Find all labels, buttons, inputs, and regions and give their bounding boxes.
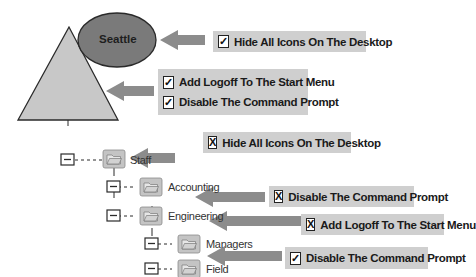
- policy-text: Hide All Icons On The Desktop: [222, 137, 380, 149]
- managers-policy-box: XAdd Logoff To The Start Menu: [301, 214, 444, 235]
- checkbox-checked-icon: ✓: [218, 35, 229, 48]
- ou-field[interactable]: Field: [206, 263, 228, 275]
- collapse-icon: [61, 154, 74, 165]
- folder-icon: [178, 260, 200, 277]
- policy-text: Hide All Icons On The Desktop: [234, 36, 392, 48]
- domain-policy-box: ✓Add Logoff To The Start Menu ✓Disable T…: [158, 69, 308, 115]
- checkbox-blocked-icon: X: [274, 190, 283, 203]
- checkbox-checked-icon: ✓: [163, 96, 174, 109]
- checkbox-blocked-icon: X: [306, 218, 315, 231]
- ou-managers[interactable]: Managers: [206, 238, 253, 250]
- folder-icon: [103, 150, 125, 168]
- folder-icon: [140, 178, 162, 196]
- ou-accounting[interactable]: Accounting: [168, 181, 219, 193]
- policy-text: Disable The Command Prompt: [179, 96, 339, 108]
- folder-icon: [140, 207, 162, 225]
- folder-icon: [178, 235, 200, 253]
- policy-text: Add Logoff To The Start Menu: [179, 76, 335, 88]
- checkbox-blocked-icon: X: [208, 136, 217, 149]
- arrow-icon: [160, 30, 205, 50]
- ou-staff[interactable]: Staff: [130, 154, 151, 166]
- engineering-policy-box: XDisable The Command Prompt: [269, 186, 414, 207]
- ou-engineering[interactable]: Engineering: [168, 210, 223, 222]
- field-policy-box: ✓Disable The Command Prompt: [285, 247, 428, 269]
- site-label: Seattle: [99, 33, 137, 45]
- collapse-icon: [145, 238, 158, 249]
- policy-text: Disable The Command Prompt: [288, 191, 448, 203]
- checkbox-checked-icon: ✓: [163, 76, 174, 89]
- staff-policy-box: XHide All Icons On The Desktop: [203, 132, 351, 153]
- site-policy-box: ✓Hide All Icons On The Desktop: [213, 31, 366, 52]
- policy-text: Disable The Command Prompt: [306, 252, 466, 264]
- checkbox-checked-icon: ✓: [290, 252, 301, 265]
- policy-text: Add Logoff To The Start Menu: [320, 219, 476, 231]
- collapse-icon: [107, 181, 120, 192]
- collapse-icon: [145, 263, 158, 274]
- collapse-icon: [107, 210, 120, 221]
